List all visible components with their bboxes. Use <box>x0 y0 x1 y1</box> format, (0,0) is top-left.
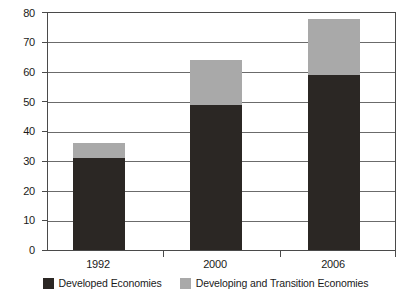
x-tick-mark-2 <box>280 251 281 257</box>
x-tick-label-2000: 2000 <box>185 258 245 270</box>
chart-legend: Developed Economies Developing and Trans… <box>0 274 411 292</box>
y-tick-label-50: 50 <box>23 97 35 108</box>
bar-segment-developed-1992 <box>73 158 125 250</box>
y-tick-label-10: 10 <box>23 215 35 226</box>
y-tick-label-20: 20 <box>23 186 35 197</box>
plot-area <box>47 12 396 251</box>
bar-segment-developing-2006 <box>308 19 360 75</box>
y-tick-label-0: 0 <box>29 245 35 256</box>
legend-swatch-developing <box>180 278 191 289</box>
bar-segment-developing-2000 <box>190 60 242 104</box>
x-tick-mark-3 <box>395 251 396 257</box>
x-tick-mark-1 <box>163 251 164 257</box>
legend-swatch-developed <box>43 278 54 289</box>
x-axis: 1992 2000 2006 <box>47 251 396 271</box>
x-tick-label-1992: 1992 <box>68 258 128 270</box>
y-axis: 80 70 60 50 40 30 20 10 0 <box>0 0 43 299</box>
y-tick-label-30: 30 <box>23 156 35 167</box>
legend-item-developed: Developed Economies <box>43 277 162 289</box>
legend-item-developing: Developing and Transition Economies <box>180 277 369 289</box>
y-tick-label-80: 80 <box>23 8 35 19</box>
bar-segment-developed-2006 <box>308 75 360 250</box>
y-tick-label-40: 40 <box>23 126 35 137</box>
stacked-bar-chart: 80 70 60 50 40 30 20 10 0 <box>0 0 411 299</box>
bar-segment-developing-1992 <box>73 143 125 158</box>
x-tick-label-2006: 2006 <box>303 258 363 270</box>
bar-segment-developed-2000 <box>190 105 242 250</box>
legend-label-developed: Developed Economies <box>59 277 162 289</box>
y-tick-label-60: 60 <box>23 67 35 78</box>
legend-label-developing: Developing and Transition Economies <box>196 277 369 289</box>
y-tick-label-70: 70 <box>23 37 35 48</box>
